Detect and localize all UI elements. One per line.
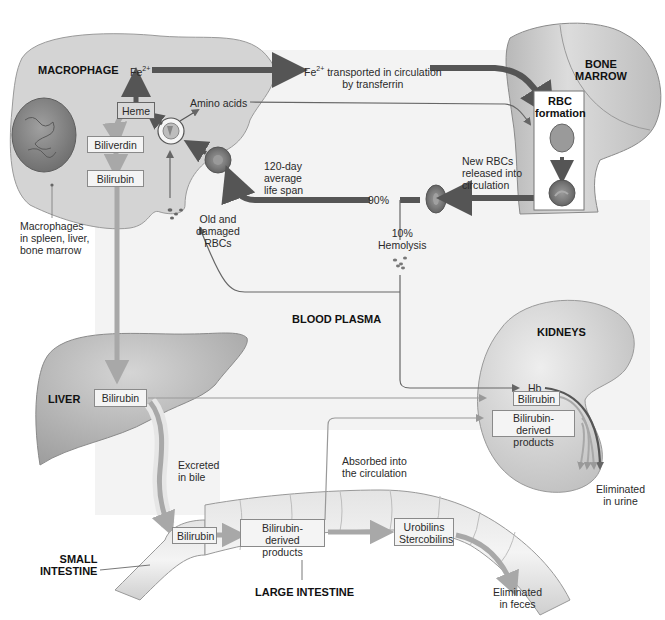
bilirubin-box-macrophage: Bilirubin: [87, 170, 144, 187]
small-intestine-label: SMALL INTESTINE: [40, 553, 97, 577]
lifespan-label: 120-day average life span: [264, 160, 303, 196]
blood-plasma-label: BLOOD PLASMA: [292, 313, 381, 325]
absorbed-label: Absorbed into the circulation: [342, 455, 407, 479]
large-intestine-label: LARGE INTESTINE: [255, 586, 354, 598]
macrophage-label: MACROPHAGE: [38, 64, 119, 76]
new-rbcs-label: New RBCs released into circulation: [462, 155, 522, 191]
percent-90-label: 90%: [368, 194, 389, 206]
bilirubin-derived-box-kidney: Bilirubin-derived products: [492, 410, 575, 437]
fe-ion-macrophage: Fe2+: [130, 63, 150, 78]
liver-label: LIVER: [48, 393, 80, 405]
bilirubin-derived-box-intestine: Bilirubin-derived products: [240, 519, 325, 547]
eliminated-urine-label: Eliminated in urine: [596, 483, 645, 507]
diagram-graphics: [0, 0, 665, 620]
bone-marrow-label: BONE MARROW: [575, 58, 627, 82]
macrophage-location-note: Macrophages in spleen, liver, bone marro…: [20, 220, 89, 256]
eliminated-feces-label: Eliminated in feces: [493, 586, 542, 610]
urobilins-box: Urobilins Stercobilins: [394, 518, 454, 546]
bilirubin-box-intestine: Bilirubin: [172, 527, 217, 544]
old-rbcs-label: Old and damaged RBCs: [196, 213, 240, 249]
excreted-in-bile-label: Excreted in bile: [178, 459, 219, 483]
macrophage-nucleus: [12, 98, 76, 172]
transferrin-label: Fe2+ transported in circulation by trans…: [304, 63, 442, 90]
bilirubin-box-kidney: Bilirubin: [513, 391, 560, 406]
biliverdin-box: Biliverdin: [87, 136, 144, 153]
bilirubin-box-liver: Bilirubin: [94, 389, 147, 407]
bilirubin-metabolism-diagram: MACROPHAGE BONE MARROW BLOOD PLASMA KIDN…: [0, 0, 665, 620]
heme-box: Heme: [117, 102, 155, 119]
kidneys-label: KIDNEYS: [537, 326, 586, 338]
amino-acids-label: Amino acids: [190, 97, 247, 109]
rbc-formation-label: RBC formation: [535, 95, 585, 119]
hemolysis-label: 10% Hemolysis: [378, 227, 426, 251]
